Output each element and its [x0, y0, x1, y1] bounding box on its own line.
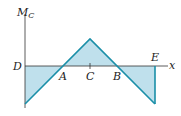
label-d: D	[12, 60, 22, 73]
positive-region-middle	[63, 39, 117, 66]
influence-line-diagram: MC x D A C B E	[0, 0, 181, 116]
x-axis-label: x	[169, 59, 176, 72]
y-axis-label: MC	[16, 6, 34, 20]
label-a: A	[58, 70, 67, 83]
label-b: B	[112, 70, 121, 83]
label-e: E	[150, 51, 159, 64]
label-c: C	[86, 70, 95, 83]
